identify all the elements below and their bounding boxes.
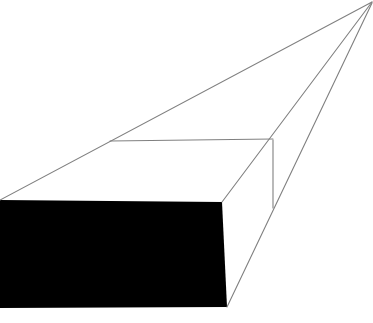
perspective-box-drawing <box>0 0 373 323</box>
drawing-canvas <box>0 0 373 323</box>
front-face <box>0 200 227 308</box>
